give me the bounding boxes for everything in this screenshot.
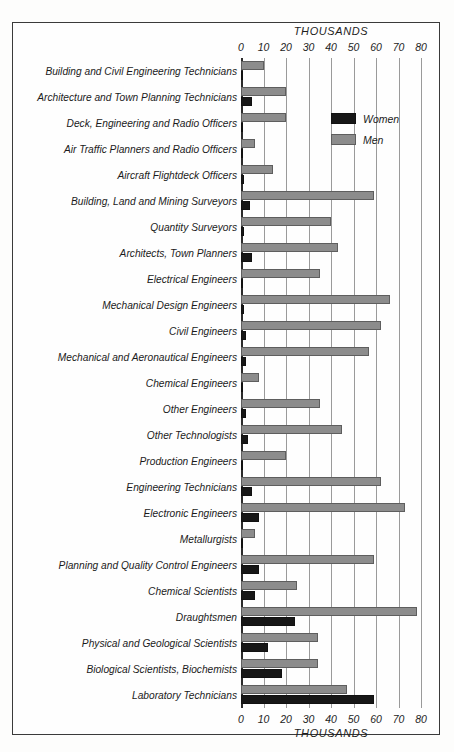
category-label: Building, Land and Mining Surveyors <box>71 196 237 207</box>
bar-row: Architecture and Town Planning Technicia… <box>241 84 421 110</box>
bar-row: Metallurgists <box>241 526 421 552</box>
bar-men <box>241 529 255 538</box>
bar-men <box>241 321 381 330</box>
category-label: Mechanical and Aeronautical Engineers <box>58 352 237 363</box>
bottom-tick-label-70: 70 <box>393 713 405 725</box>
top-axis-title: THOUSANDS <box>294 25 368 37</box>
chart-legend: WomenMen <box>331 111 427 153</box>
category-label: Electrical Engineers <box>147 274 237 285</box>
bar-women <box>241 279 243 288</box>
bottom-tick-label-60: 60 <box>370 713 382 725</box>
category-label: Architecture and Town Planning Technicia… <box>37 92 237 103</box>
legend-item-women: Women <box>331 111 399 126</box>
category-label: Quantity Surveyors <box>150 222 237 233</box>
category-label: Other Engineers <box>163 404 237 415</box>
bottom-tick-label-20: 20 <box>280 713 292 725</box>
bar-row: Chemical Scientists <box>241 578 421 604</box>
category-label: Building and Civil Engineering Technicia… <box>45 66 237 77</box>
bar-row: Engineering Technicians <box>241 474 421 500</box>
bar-men <box>241 269 320 278</box>
top-axis-tick-labels: 01020304050607080 <box>241 41 421 55</box>
bottom-tick-label-0: 0 <box>238 713 244 725</box>
category-label: Other Technologists <box>147 430 237 441</box>
bar-men <box>241 191 374 200</box>
category-label: Physical and Geological Scientists <box>82 638 237 649</box>
bar-men <box>241 555 374 564</box>
bar-women <box>241 487 252 496</box>
bar-men <box>241 399 320 408</box>
gridline-80 <box>421 58 422 708</box>
bar-row: Planning and Quality Control Engineers <box>241 552 421 578</box>
legend-item-men: Men <box>331 132 383 147</box>
bar-women <box>241 175 244 184</box>
chart-frame: THOUSANDS 01020304050607080 Building and… <box>12 22 440 735</box>
category-label: Laboratory Technicians <box>132 690 237 701</box>
bar-women <box>241 539 243 548</box>
bar-row: Electrical Engineers <box>241 266 421 292</box>
category-label: Electronic Engineers <box>144 508 237 519</box>
bar-men <box>241 217 331 226</box>
bottom-tick-label-10: 10 <box>258 713 270 725</box>
category-label: Architects, Town Planners <box>120 248 237 259</box>
bottom-tick-label-50: 50 <box>348 713 360 725</box>
category-label: Planning and Quality Control Engineers <box>59 560 237 571</box>
bar-row: Mechanical Design Engineers <box>241 292 421 318</box>
bar-men <box>241 373 259 382</box>
bar-row: Biological Scientists, Biochemists <box>241 656 421 682</box>
bar-men <box>241 425 342 434</box>
bottom-tick-label-30: 30 <box>303 713 315 725</box>
top-tick-label-50: 50 <box>348 41 360 53</box>
bottom-tick-label-80: 80 <box>415 713 427 725</box>
top-tick-label-80: 80 <box>415 41 427 53</box>
bar-men <box>241 295 390 304</box>
bar-women <box>241 331 246 340</box>
top-tick-label-30: 30 <box>303 41 315 53</box>
bar-men <box>241 61 264 70</box>
legend-label: Women <box>363 113 399 125</box>
bar-men <box>241 685 347 694</box>
bar-women <box>241 71 243 80</box>
bar-women <box>241 669 282 678</box>
category-label: Deck, Engineering and Radio Officers <box>67 118 237 129</box>
legend-swatch-men-icon <box>331 134 356 145</box>
bar-row: Chemical Engineers <box>241 370 421 396</box>
top-tick-label-40: 40 <box>325 41 337 53</box>
bar-women <box>241 97 252 106</box>
category-label: Aircraft Flightdeck Officers <box>118 170 237 181</box>
bar-men <box>241 87 286 96</box>
bar-men <box>241 347 369 356</box>
bar-row: Building, Land and Mining Surveyors <box>241 188 421 214</box>
bar-women <box>241 565 259 574</box>
category-label: Biological Scientists, Biochemists <box>86 664 237 675</box>
bar-men <box>241 607 417 616</box>
bar-men <box>241 451 286 460</box>
category-label: Metallurgists <box>180 534 237 545</box>
bar-women <box>241 513 259 522</box>
bar-row: Other Engineers <box>241 396 421 422</box>
bar-women <box>241 461 243 470</box>
bar-row: Physical and Geological Scientists <box>241 630 421 656</box>
bar-men <box>241 477 381 486</box>
bar-men <box>241 139 255 148</box>
bar-men <box>241 659 318 668</box>
bar-men <box>241 633 318 642</box>
bar-men <box>241 581 297 590</box>
bar-women <box>241 305 244 314</box>
category-label: Production Engineers <box>140 456 237 467</box>
bar-row: Other Technologists <box>241 422 421 448</box>
bottom-axis-tick-labels: 01020304050607080 <box>241 713 421 727</box>
bar-men <box>241 243 338 252</box>
bar-row: Building and Civil Engineering Technicia… <box>241 58 421 84</box>
bar-row: Aircraft Flightdeck Officers <box>241 162 421 188</box>
top-tick-label-20: 20 <box>280 41 292 53</box>
bar-women <box>241 357 246 366</box>
bar-men <box>241 165 273 174</box>
bar-women <box>241 435 248 444</box>
top-tick-label-10: 10 <box>258 41 270 53</box>
bar-row: Laboratory Technicians <box>241 682 421 708</box>
legend-swatch-women-icon <box>331 113 356 124</box>
category-label: Air Traffic Planners and Radio Officers <box>64 144 237 155</box>
bar-row: Mechanical and Aeronautical Engineers <box>241 344 421 370</box>
bar-women <box>241 123 243 132</box>
chart-page: THOUSANDS 01020304050607080 Building and… <box>0 0 454 752</box>
